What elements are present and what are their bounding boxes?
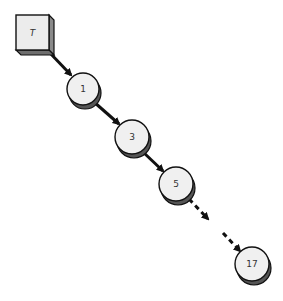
node-label: 1	[80, 84, 86, 94]
node-label: 3	[129, 132, 135, 142]
node-label: 17	[246, 259, 257, 269]
root-box-t: T	[16, 15, 54, 55]
node-label: 5	[173, 179, 179, 189]
edge-1-to-3	[94, 102, 119, 124]
node-3: 3	[115, 120, 151, 158]
node-17: 17	[235, 247, 271, 285]
edge-5-to-17-dashed	[189, 199, 240, 251]
chain-diagram: T 1 3 5 17	[0, 0, 283, 301]
edge-3-to-5	[143, 152, 163, 171]
node-1: 1	[67, 73, 101, 109]
node-5: 5	[159, 167, 195, 205]
